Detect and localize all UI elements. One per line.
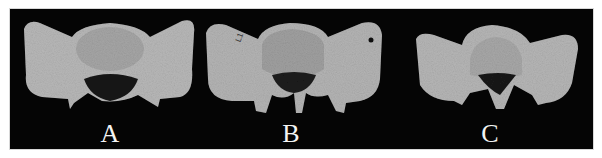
figure-panel: L1 A B C	[9, 8, 594, 150]
specimen-c	[416, 25, 578, 109]
panel-label-a: A	[101, 121, 120, 147]
panel-label-c: C	[481, 121, 498, 147]
panel-label-b: B	[282, 121, 299, 147]
specimen-b	[206, 22, 382, 113]
specimen-a	[24, 20, 194, 109]
vertebrae-illustration	[10, 9, 595, 151]
